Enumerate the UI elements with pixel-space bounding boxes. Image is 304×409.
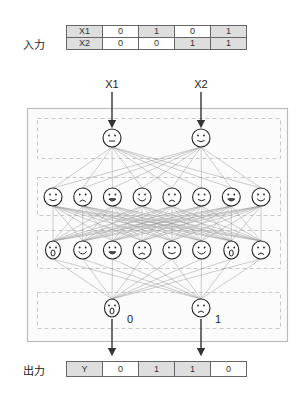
neutral-face-icon bbox=[103, 129, 121, 147]
output-row-y: Y 0 1 1 0 bbox=[67, 362, 247, 377]
output-row-header: Y bbox=[67, 362, 103, 377]
arrow-label-x1: X1 bbox=[105, 78, 118, 90]
output-cell: 1 bbox=[139, 362, 175, 377]
smile-face-icon bbox=[192, 129, 210, 147]
happy-face-icon bbox=[74, 241, 92, 259]
sad-face-icon bbox=[74, 188, 92, 206]
grimace-face-icon bbox=[222, 188, 240, 206]
grimace-face-icon bbox=[103, 241, 121, 259]
happy-face-icon bbox=[252, 188, 270, 206]
sad-face-icon bbox=[163, 188, 181, 206]
output-cell: 0 bbox=[103, 362, 139, 377]
output-table: Y 0 1 1 0 bbox=[66, 361, 247, 377]
grimace-face-icon bbox=[103, 188, 121, 206]
sad-face-icon bbox=[252, 241, 270, 259]
surprised-face-icon bbox=[224, 241, 239, 259]
happy-face-icon bbox=[193, 241, 211, 259]
happy-face-icon bbox=[133, 188, 151, 206]
output-label: 出力 bbox=[23, 362, 45, 378]
output-cell: 1 bbox=[175, 362, 211, 377]
output-node-label-1: 1 bbox=[215, 313, 221, 325]
output-cell: 0 bbox=[211, 362, 247, 377]
sad-face-icon bbox=[192, 299, 210, 317]
arrow-label-x2: X2 bbox=[194, 78, 207, 90]
output-node-label-0: 0 bbox=[127, 313, 133, 325]
surprised-face-icon bbox=[46, 241, 61, 259]
sad-face-icon bbox=[133, 241, 151, 259]
smile-face-icon bbox=[163, 241, 181, 259]
smile-face-icon bbox=[44, 188, 62, 206]
smile-face-icon bbox=[193, 188, 211, 206]
neural-network-diagram: X1 X2 0 1 bbox=[0, 0, 304, 409]
surprised-face-icon bbox=[105, 299, 120, 317]
